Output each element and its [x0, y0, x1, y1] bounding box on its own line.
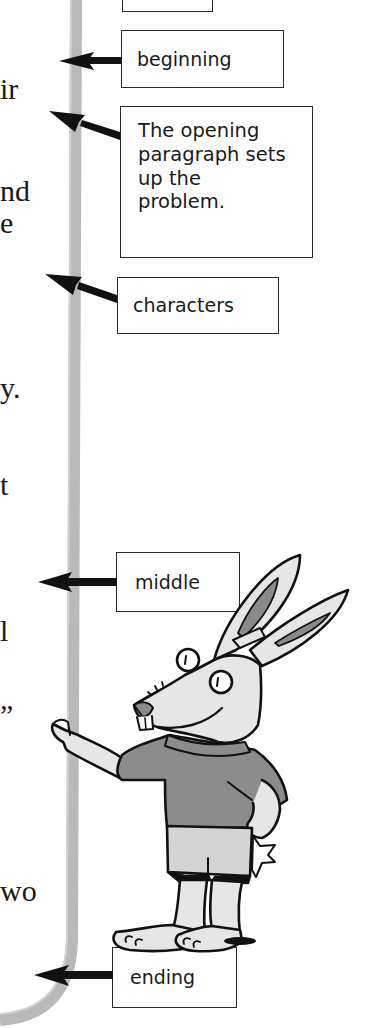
rabbit-illustration	[0, 0, 366, 1028]
rabbit-shorts	[167, 826, 252, 876]
rabbit-eye-right	[210, 671, 232, 693]
rabbit-eye-left	[177, 649, 199, 671]
rabbit-arm-left	[52, 724, 122, 778]
